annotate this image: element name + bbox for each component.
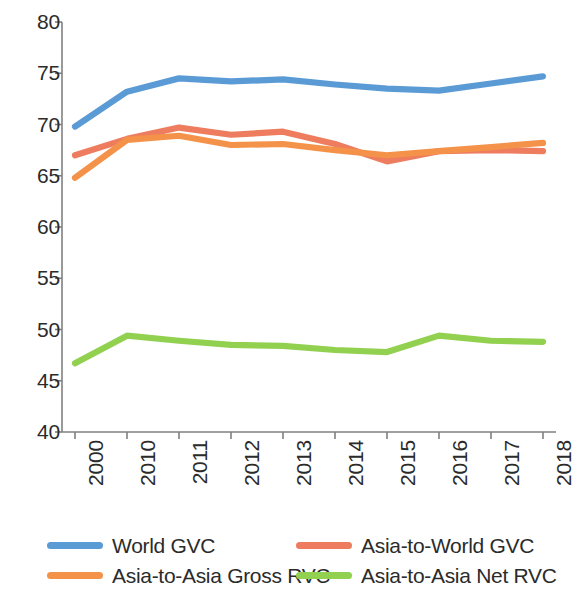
y-axis-label: 75 xyxy=(12,62,60,83)
x-axis-label: 2012 xyxy=(241,440,262,530)
legend-item[interactable]: Asia-to-Asia Gross RVC xyxy=(0,564,290,587)
line-chart: 404550556065707580 200020102011201220132… xyxy=(0,0,588,591)
y-axis-label: 70 xyxy=(12,114,60,135)
x-axis-tick-labels: 2000201020112012201320142015201620172018 xyxy=(0,432,588,528)
legend-swatch-world-gvc xyxy=(47,542,103,549)
legend-item-label: Asia-to-World GVC xyxy=(361,534,534,557)
y-axis-label: 60 xyxy=(12,216,60,237)
x-axis-label: 2000 xyxy=(85,440,106,530)
legend-item[interactable]: Asia-to-World GVC xyxy=(290,534,553,557)
x-axis-label: 2017 xyxy=(501,440,522,530)
y-axis-label: 45 xyxy=(12,370,60,391)
legend-item[interactable]: World GVC xyxy=(0,534,290,557)
x-axis-label: 2011 xyxy=(189,440,210,530)
x-axis-label: 2015 xyxy=(397,440,418,530)
y-axis-label: 80 xyxy=(12,11,60,32)
chart-legend: World GVCAsia-to-World GVCAsia-to-Asia G… xyxy=(0,530,588,591)
plot-area xyxy=(0,0,588,440)
x-axis-label: 2018 xyxy=(553,440,574,530)
series-line-3 xyxy=(75,336,543,364)
x-axis-label: 2013 xyxy=(293,440,314,530)
series-line-0 xyxy=(75,76,543,126)
plot-svg xyxy=(0,0,588,440)
series-line-2 xyxy=(75,136,543,178)
y-axis-label: 50 xyxy=(12,319,60,340)
legend-item-label: World GVC xyxy=(112,534,215,557)
x-axis-label: 2014 xyxy=(345,440,366,530)
legend-swatch-asia-to-world-gvc xyxy=(296,542,352,549)
x-axis-label: 2010 xyxy=(137,440,158,530)
y-axis-label: 55 xyxy=(12,267,60,288)
legend-item-label: Asia-to-Asia Net RVC xyxy=(361,564,557,587)
y-axis-label: 65 xyxy=(12,165,60,186)
x-axis-label: 2016 xyxy=(449,440,470,530)
legend-item[interactable]: Asia-to-Asia Net RVC xyxy=(290,564,553,587)
legend-swatch-asia-to-asia-gross-rvc xyxy=(47,572,103,579)
legend-swatch-asia-to-asia-net-rvc xyxy=(296,572,352,579)
y-axis-tick-labels: 404550556065707580 xyxy=(0,0,60,440)
